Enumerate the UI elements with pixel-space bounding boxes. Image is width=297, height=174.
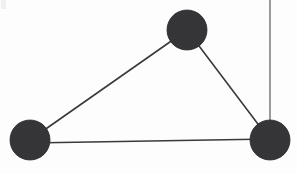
node-top-circle-overlay (167, 10, 207, 50)
node-right[interactable] (250, 120, 290, 160)
node-right-circle-overlay (250, 120, 290, 160)
node-left-circle-overlay (10, 120, 50, 160)
graph-svg (0, 0, 297, 174)
node-left[interactable] (10, 120, 50, 160)
diagram-canvas (0, 0, 297, 174)
node-top[interactable] (167, 10, 207, 50)
